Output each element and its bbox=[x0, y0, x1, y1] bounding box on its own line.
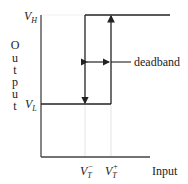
svg-text:t: t bbox=[13, 99, 17, 113]
vt-plus-label: VT+ bbox=[105, 162, 118, 180]
vt-minus-label: VT− bbox=[80, 162, 93, 180]
x-axis-label: Input bbox=[152, 164, 178, 178]
hysteresis-diagram: VH VL O u t p u t deadband VT− VT+ Input bbox=[0, 0, 188, 184]
svg-text:O: O bbox=[11, 38, 20, 52]
deadband-label: deadband bbox=[134, 55, 180, 69]
y-axis-label: O u t p u t bbox=[11, 38, 20, 113]
vh-label: VH bbox=[24, 9, 38, 25]
vl-label: VL bbox=[25, 97, 37, 113]
